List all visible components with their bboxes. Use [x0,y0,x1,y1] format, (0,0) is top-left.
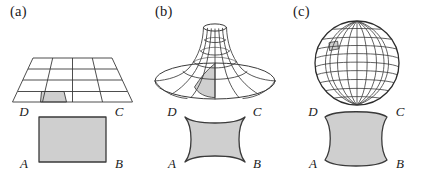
panel-c-label: (c) [293,4,310,19]
geometry-curvature-figure: (a) [0,0,430,176]
flat-plane-grid [0,18,145,110]
concave-square-diagram: A B C D [143,104,288,176]
panel-a: (a) [0,0,145,176]
pseudosphere-surface [143,18,288,110]
vertex-label-c: C [115,104,124,119]
convex-square [325,112,387,166]
panel-a-label: (a) [10,4,27,19]
panel-b: (b) [143,0,288,176]
vertex-label-b: B [396,156,404,171]
vertex-label-a: A [19,156,28,171]
vertex-label-c: C [396,104,405,119]
vertex-label-b: B [253,156,261,171]
vertex-label-b: B [115,156,123,171]
sphere-surface [285,18,430,110]
panel-c: (c) [285,0,430,176]
vertex-label-a: A [167,156,176,171]
vertex-label-d: D [18,104,29,119]
flat-square-diagram: A B C D [0,104,145,176]
vertex-label-d: D [166,104,177,119]
vertex-label-c: C [253,104,262,119]
vertex-label-d: D [307,104,318,119]
convex-square-diagram: A B C D [285,104,430,176]
panel-b-label: (b) [155,4,173,19]
vertex-label-a: A [308,156,317,171]
concave-square [185,117,245,162]
flat-square [39,117,106,162]
